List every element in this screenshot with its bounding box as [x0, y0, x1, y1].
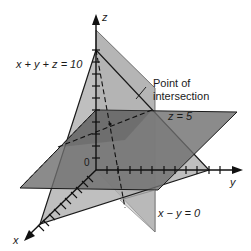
- y-axis-label: y: [230, 176, 236, 188]
- diagram-canvas: z y x 0 x + y + z = 10 z = 5 x − y = 0 P…: [0, 0, 251, 251]
- z-axis-label: z: [102, 11, 108, 23]
- annotation-line-2: intersection: [153, 90, 209, 102]
- planes-figure: [0, 0, 251, 251]
- plane-label-x-plus-y-plus-z: x + y + z = 10: [16, 58, 82, 70]
- plane-label-x-minus-y: x − y = 0: [158, 207, 200, 219]
- intersection-point: [108, 122, 111, 125]
- z-axis-arrow-icon: [92, 14, 100, 25]
- plane-label-z-equals-5: z = 5: [168, 110, 192, 122]
- annotation-line-1: Point of: [153, 77, 190, 89]
- y-axis-arrow-icon: [232, 166, 243, 174]
- x-axis-label: x: [13, 234, 19, 246]
- origin-label: 0: [84, 157, 90, 169]
